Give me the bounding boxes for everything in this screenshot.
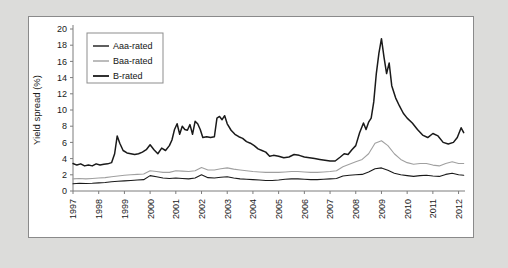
y-tick-label: 10 bbox=[57, 105, 67, 115]
y-tick-label: 14 bbox=[57, 73, 67, 83]
legend-label-b-rated: B-rated bbox=[113, 71, 143, 81]
y-tick-label: 4 bbox=[62, 154, 67, 164]
x-tick-label: 2004 bbox=[248, 199, 258, 219]
x-tick-label: 2011 bbox=[428, 199, 438, 218]
y-tick-label: 16 bbox=[57, 57, 67, 67]
y-tick-label: 18 bbox=[57, 40, 67, 50]
x-tick-label: 2005 bbox=[274, 199, 284, 219]
y-tick-label: 8 bbox=[62, 121, 67, 131]
y-tick-label: 20 bbox=[57, 24, 67, 34]
x-tick-label: 2000 bbox=[146, 199, 156, 219]
x-tick-label: 2007 bbox=[325, 199, 335, 219]
x-tick-label: 2009 bbox=[377, 199, 387, 219]
x-tick-label: 2008 bbox=[351, 199, 361, 219]
series-line-baa-rated bbox=[73, 141, 464, 179]
x-tick-label: 1997 bbox=[68, 199, 78, 219]
figure-root: 0246810121416182019971998199920002001200… bbox=[0, 0, 508, 268]
y-tick-label: 2 bbox=[62, 170, 67, 180]
legend-label-aaa-rated: Aaa-rated bbox=[113, 41, 153, 51]
x-tick-label: 1999 bbox=[120, 199, 130, 219]
chart-surface: 0246810121416182019971998199920002001200… bbox=[29, 17, 473, 237]
x-tick-label: 2012 bbox=[454, 199, 464, 219]
legend-label-baa-rated: Baa-rated bbox=[113, 56, 153, 66]
y-tick-label: 12 bbox=[57, 89, 67, 99]
y-tick-label: 6 bbox=[62, 138, 67, 148]
x-tick-label: 1998 bbox=[94, 199, 104, 219]
x-tick-label: 2002 bbox=[197, 199, 207, 219]
yield-spread-line-chart: 0246810121416182019971998199920002001200… bbox=[29, 17, 473, 237]
y-axis-title: Yield spread (%) bbox=[31, 75, 42, 145]
x-tick-label: 2006 bbox=[300, 199, 310, 219]
chart-legend: Aaa-ratedBaa-ratedB-rated bbox=[87, 33, 163, 83]
series-line-aaa-rated bbox=[73, 168, 464, 184]
chart-panel: 0246810121416182019971998199920002001200… bbox=[28, 16, 474, 238]
y-tick-label: 0 bbox=[62, 186, 67, 196]
x-tick-label: 2010 bbox=[403, 199, 413, 219]
x-tick-label: 2001 bbox=[171, 199, 181, 219]
x-tick-label: 2003 bbox=[223, 199, 233, 219]
